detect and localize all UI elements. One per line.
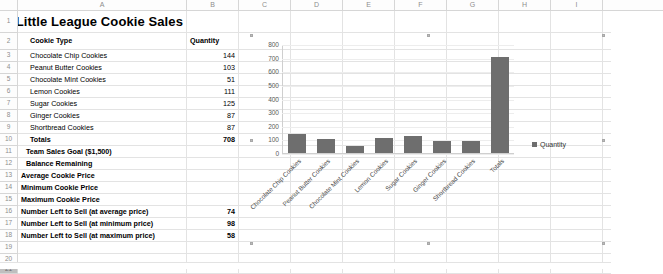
row-header-4[interactable]: 4: [0, 62, 18, 74]
cell-e1[interactable]: [343, 11, 395, 32]
cell-c1[interactable]: [239, 11, 291, 32]
cell-f1[interactable]: [395, 11, 447, 32]
cell-b7[interactable]: 125: [187, 98, 239, 109]
row-header-10[interactable]: 10: [0, 134, 18, 146]
cell-b17[interactable]: 98: [187, 218, 239, 229]
cell-b14[interactable]: [187, 182, 239, 193]
row-header-18[interactable]: 18: [0, 230, 18, 242]
cell-a6[interactable]: Lemon Cookies: [18, 86, 187, 97]
cell-b5[interactable]: 51: [187, 74, 239, 85]
cell-j8[interactable]: [603, 110, 663, 121]
chart-handle-top-center[interactable]: [427, 34, 430, 37]
cell-d1[interactable]: [291, 11, 343, 32]
cell-b1[interactable]: [187, 11, 239, 32]
chart-handle-top-right[interactable]: [602, 34, 605, 37]
column-header-e[interactable]: E: [343, 0, 395, 11]
cell-a17[interactable]: Number Left to Sell (at minimum price): [18, 218, 187, 229]
select-all-corner[interactable]: [0, 0, 18, 11]
chart-bar[interactable]: [462, 141, 480, 153]
chart-bar[interactable]: [404, 136, 422, 153]
cell-b9[interactable]: 87: [187, 122, 239, 133]
cell-b16[interactable]: 74: [187, 206, 239, 217]
cell-b13[interactable]: [187, 170, 239, 181]
chart-handle-top-left[interactable]: [250, 34, 253, 37]
cell-a13[interactable]: Average Cookie Price: [18, 170, 187, 181]
column-header-g[interactable]: G: [447, 0, 499, 11]
cell-b18[interactable]: 58: [187, 230, 239, 241]
cell-j19[interactable]: [603, 242, 663, 253]
cell-a10-totals-label[interactable]: Totals: [18, 134, 187, 145]
cell-a11[interactable]: Team Sales Goal ($1,500): [18, 146, 187, 157]
cell-j11[interactable]: [603, 146, 663, 157]
cell-a16[interactable]: Number Left to Sell (at average price): [18, 206, 187, 217]
column-header-h[interactable]: H: [499, 0, 551, 11]
cell-j20[interactable]: [603, 254, 663, 265]
column-header-c[interactable]: C: [239, 0, 291, 11]
cell-a14[interactable]: Minimum Cookie Price: [18, 182, 187, 193]
cell-j10[interactable]: [603, 134, 663, 145]
cell-b6[interactable]: 111: [187, 86, 239, 97]
column-header-a[interactable]: A: [18, 0, 187, 11]
cell-a1-title[interactable]: Little League Cookie Sales: [18, 11, 187, 32]
row-header-14[interactable]: 14: [0, 182, 18, 194]
column-header-d[interactable]: D: [291, 0, 343, 11]
cell-h1[interactable]: [499, 11, 551, 32]
chart-bar[interactable]: [491, 57, 509, 153]
cell-b15[interactable]: [187, 194, 239, 205]
column-header-i[interactable]: I: [551, 0, 603, 11]
cell-b2-quantity-header[interactable]: Quantity: [187, 33, 239, 49]
cell-b4[interactable]: 103: [187, 62, 239, 73]
cell-a8[interactable]: Ginger Cookies: [18, 110, 187, 121]
cell-j5[interactable]: [603, 74, 663, 85]
cell-b10-totals-value[interactable]: 708: [187, 134, 239, 145]
chart-bar[interactable]: [288, 134, 306, 153]
row-header-17[interactable]: 17: [0, 218, 18, 230]
cell-b3[interactable]: 144: [187, 50, 239, 61]
row-header-11[interactable]: 11: [0, 146, 18, 158]
row-header-5[interactable]: 5: [0, 74, 18, 86]
chart-handle-middle-right[interactable]: [602, 139, 605, 142]
row-header-3[interactable]: 3: [0, 50, 18, 62]
chart-bar[interactable]: [346, 146, 364, 153]
chart-handle-bottom-left[interactable]: [250, 242, 253, 245]
cell-j1[interactable]: [603, 11, 663, 32]
row-header-13[interactable]: 13: [0, 170, 18, 182]
cell-j7[interactable]: [603, 98, 663, 109]
row-header-1[interactable]: 1: [0, 11, 18, 33]
cell-b8[interactable]: 87: [187, 110, 239, 121]
cell-j14[interactable]: [603, 182, 663, 193]
cell-a9[interactable]: Shortbread Cookies: [18, 122, 187, 133]
cell-i1[interactable]: [551, 11, 603, 32]
embedded-bar-chart[interactable]: 8007006005004003002001000 Chocolate Chip…: [252, 36, 604, 244]
row-header-6[interactable]: 6: [0, 86, 18, 98]
cell-a7[interactable]: Sugar Cookies: [18, 98, 187, 109]
column-header-j[interactable]: [603, 0, 663, 11]
cell-j4[interactable]: [603, 62, 663, 73]
cell-j21[interactable]: [603, 266, 663, 273]
row-header-19[interactable]: 19: [0, 242, 18, 254]
cell-a18[interactable]: Number Left to Sell (at maximum price): [18, 230, 187, 241]
chart-handle-bottom-center[interactable]: [427, 242, 430, 245]
cell-a4[interactable]: Peanut Butter Cookies: [18, 62, 187, 73]
row-header-8[interactable]: 8: [0, 110, 18, 122]
column-header-b[interactable]: B: [187, 0, 239, 11]
row-header-9[interactable]: 9: [0, 122, 18, 134]
cell-j18[interactable]: [603, 230, 663, 241]
chart-handle-middle-left[interactable]: [250, 139, 253, 142]
cell-a5[interactable]: Chocolate Mint Cookies: [18, 74, 187, 85]
cell-a19[interactable]: [18, 242, 187, 253]
cell-j9[interactable]: [603, 122, 663, 133]
cell-j16[interactable]: [603, 206, 663, 217]
cell-j15[interactable]: [603, 194, 663, 205]
chart-bar[interactable]: [317, 139, 335, 153]
column-header-f[interactable]: F: [395, 0, 447, 11]
cell-b12[interactable]: [187, 158, 239, 169]
cell-j17[interactable]: [603, 218, 663, 229]
chart-bar[interactable]: [433, 141, 451, 153]
cell-b19[interactable]: [187, 242, 239, 253]
cell-a15[interactable]: Maximum Cookie Price: [18, 194, 187, 205]
row-header-15[interactable]: 15: [0, 194, 18, 206]
cell-j12[interactable]: [603, 158, 663, 169]
cell-j2[interactable]: [603, 33, 663, 49]
cell-j13[interactable]: [603, 170, 663, 181]
